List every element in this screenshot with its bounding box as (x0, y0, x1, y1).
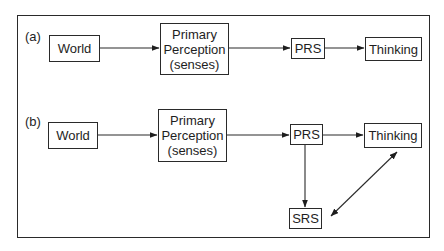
panel-a-node-thinking: Thinking (365, 37, 422, 61)
panel-b-node-srs: SRS (289, 208, 322, 229)
panel-a-node-world: World (49, 35, 100, 62)
panel-a-label: (a) (25, 30, 41, 44)
panel-a-node-prs: PRS (291, 38, 325, 59)
panel-b-label: (b) (25, 115, 41, 129)
panel-b-node-thinking: Thinking (364, 123, 422, 148)
panel-b-node-world: World (48, 122, 98, 149)
panel-b-node-primary-perception: Primary Perception (senses) (158, 109, 227, 162)
panel-a-node-primary-perception: Primary Perception (senses) (160, 23, 229, 75)
panel-b-node-prs: PRS (290, 124, 323, 145)
